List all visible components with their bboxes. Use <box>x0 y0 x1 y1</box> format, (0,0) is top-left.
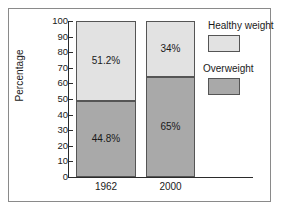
y-tick-label-50: 50 <box>42 94 68 104</box>
bar-label-2000-overweight: 65% <box>160 121 180 132</box>
y-tick-label-90: 90 <box>42 32 68 42</box>
y-tick-40: 40 <box>36 110 68 120</box>
y-tick-80: 80 <box>36 47 68 57</box>
legend-label-overweight: Overweight <box>203 63 254 75</box>
y-tick-mark-60 <box>68 83 73 84</box>
y-tick-mark-30 <box>68 130 73 131</box>
legend-item-healthy-weight[interactable]: Healthy weight <box>208 20 274 52</box>
y-tick-label-100: 100 <box>42 16 68 26</box>
y-tick-30: 30 <box>36 125 68 135</box>
legend-swatch-overweight <box>208 78 240 95</box>
bar-label-1962-overweight: 44.8% <box>92 133 120 144</box>
y-tick-100: 100 <box>36 16 68 26</box>
bar-label-1962-healthy: 51.2% <box>92 55 120 66</box>
y-tick-mark-0 <box>68 177 73 178</box>
y-tick-label-10: 10 <box>42 156 68 166</box>
bar-2000: 34% 65% <box>146 21 195 177</box>
y-tick-label-70: 70 <box>42 63 68 73</box>
x-tick-label-2000: 2000 <box>146 181 195 192</box>
y-tick-label-60: 60 <box>42 78 68 88</box>
y-tick-10: 10 <box>36 156 68 166</box>
y-tick-70: 70 <box>36 63 68 73</box>
legend-swatch-healthy-weight <box>208 35 240 52</box>
y-tick-60: 60 <box>36 78 68 88</box>
y-tick-label-20: 20 <box>42 141 68 151</box>
bar-segment-2000-overweight: 65% <box>146 77 195 177</box>
y-axis-title: Percentage <box>14 31 25 121</box>
y-tick-20: 20 <box>36 141 68 151</box>
y-tick-mark-80 <box>68 52 73 53</box>
bar-segment-2000-healthy: 34% <box>146 21 195 77</box>
y-tick-label-80: 80 <box>42 47 68 57</box>
y-tick-mark-100 <box>68 21 73 22</box>
y-tick-mark-20 <box>68 146 73 147</box>
y-tick-50: 50 <box>36 94 68 104</box>
y-tick-mark-70 <box>68 68 73 69</box>
x-axis-line <box>68 177 253 178</box>
bar-1962: 51.2% 44.8% <box>76 21 136 177</box>
y-tick-mark-40 <box>68 115 73 116</box>
y-tick-mark-10 <box>68 161 73 162</box>
legend-label-healthy-weight: Healthy weight <box>208 20 274 32</box>
chart-figure: Percentage 100 90 80 70 60 50 40 30 20 1… <box>0 0 282 216</box>
y-tick-label-30: 30 <box>42 125 68 135</box>
x-tick-label-1962: 1962 <box>76 181 136 192</box>
legend-item-overweight[interactable]: Overweight <box>203 63 254 95</box>
bar-label-2000-healthy: 34% <box>160 43 180 54</box>
bar-segment-1962-healthy: 51.2% <box>76 21 136 101</box>
y-tick-mark-90 <box>68 37 73 38</box>
y-tick-mark-50 <box>68 99 73 100</box>
y-tick-label-0: 0 <box>42 172 68 182</box>
y-tick-90: 90 <box>36 32 68 42</box>
y-tick-0: 0 <box>36 172 68 182</box>
bar-segment-1962-overweight: 44.8% <box>76 101 136 177</box>
y-tick-label-40: 40 <box>42 110 68 120</box>
